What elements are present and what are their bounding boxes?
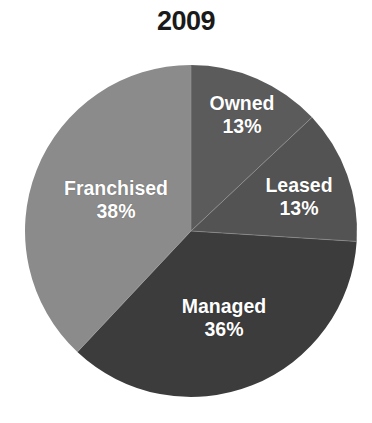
chart-title: 2009 bbox=[0, 8, 372, 35]
pie-svg bbox=[0, 55, 372, 415]
pie-plot-area: Owned 13% Leased 13% Managed 36% Franchi… bbox=[0, 55, 372, 415]
pie-chart-figure: 2009 Owned 13% Leased 13% Managed 36% Fr… bbox=[0, 0, 372, 423]
